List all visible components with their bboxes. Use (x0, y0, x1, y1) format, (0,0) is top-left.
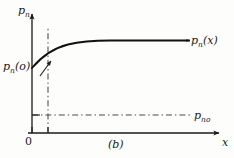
initial-value-subscript: n (10, 66, 15, 75)
initial-value-argument: (o) (15, 60, 30, 73)
y-axis-label-base: p (18, 4, 25, 17)
figure-canvas (0, 0, 234, 158)
curve-pn-x (32, 41, 188, 69)
curve-label-base: p (191, 34, 198, 47)
y-axis-label-subscript: n (25, 10, 30, 19)
annotation-arrow-pn-zero (40, 61, 51, 76)
x-axis-label: x (222, 137, 228, 148)
initial-value-label: pn(o) (3, 61, 30, 72)
figure-caption: (b) (108, 139, 124, 150)
origin-label: 0 (25, 136, 32, 147)
curve-label: pn(x) (191, 35, 218, 46)
curve-label-subscript: n (198, 40, 203, 49)
asymptote-label-subscript: no (201, 115, 211, 124)
initial-value-base: p (3, 60, 10, 73)
curve-label-argument: (x) (203, 34, 218, 47)
y-axis-label: pn (18, 5, 30, 16)
asymptote-label: pno (194, 110, 211, 121)
figure-container: pn pn(o) pn(x) pno 0 x (b) (0, 0, 234, 158)
asymptote-label-base: p (194, 109, 201, 122)
